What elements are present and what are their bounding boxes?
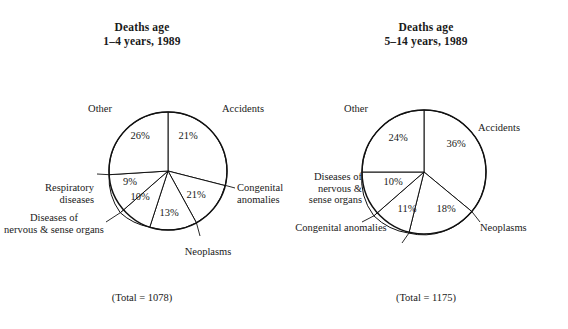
pie-right-leader-congenital [402,233,409,243]
chart-panel-right: Deaths age 5–14 years, 1989 36% 18% 11% … [284,0,568,329]
pie-left-label-respiratory: Respiratory diseases [14,182,94,205]
chart-panel-left: Deaths age 1–4 years, 1989 21% [0,0,284,329]
pie-left-leader-neoplasms [196,223,200,236]
pie-left-pct-accidents: 21% [168,130,208,142]
pie-left-leader-congenital [225,185,235,188]
pie-left-label-other: Other [50,103,112,115]
pie-right-label-accidents: Accidents [478,122,520,134]
pie-left-leader-nervous [106,213,120,222]
pie-left-label-accidents: Accidents [222,103,264,115]
pie-left-label-nervous: Diseases of nervous & sense organs [0,212,108,235]
pie-right-label-neoplasms: Neoplasms [480,222,527,234]
pie-right-pct-neoplasms: 18% [428,203,464,215]
pie-right-svg [284,0,568,329]
pie-right-label-other: Other [306,103,368,115]
pie-left-pct-other: 26% [120,130,160,142]
pie-left-pct-nervous: 10% [123,191,157,203]
pie-left-pct-congenital: 21% [176,189,216,201]
pie-right-pct-accidents: 36% [436,138,476,150]
pie-left-pct-neoplasms: 13% [152,207,186,219]
pie-right-label-nervous: Diseases of nervous & sense organs [284,171,362,206]
pie-right-leader-neoplasms [472,212,480,222]
pie-right-label-congenital: Congenital anomalies [284,222,398,234]
pie-right-pct-nervous: 10% [376,176,410,188]
pie-chart-figure: Deaths age 1–4 years, 1989 21% [0,0,568,329]
pie-right-pct-other: 24% [378,132,418,144]
pie-right-pct-congenital: 11% [390,203,424,215]
pie-left-leader-respiratory [97,174,109,175]
pie-right-total: (Total = 1175) [284,292,568,303]
pie-left-total: (Total = 1078) [0,292,284,303]
pie-left-svg [0,0,284,329]
pie-left-slice-other [109,112,168,175]
pie-left-pct-respiratory: 9% [116,176,144,188]
pie-left-label-congenital: Congenital anomalies [237,182,283,205]
pie-left-label-neoplasms: Neoplasms [168,246,248,258]
